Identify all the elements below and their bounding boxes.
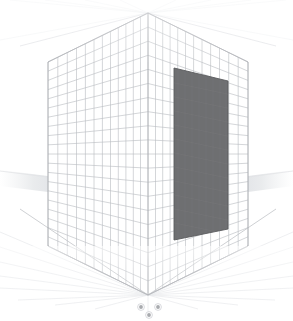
- ground-plane-band: [0, 170, 293, 192]
- dark-panel[interactable]: [170, 60, 232, 250]
- floor-fade-overlay: [0, 246, 293, 321]
- 3d-perspective-viewport[interactable]: [0, 0, 293, 321]
- ceiling-fade-overlay: [0, 0, 293, 62]
- scene-canvas[interactable]: [0, 0, 293, 321]
